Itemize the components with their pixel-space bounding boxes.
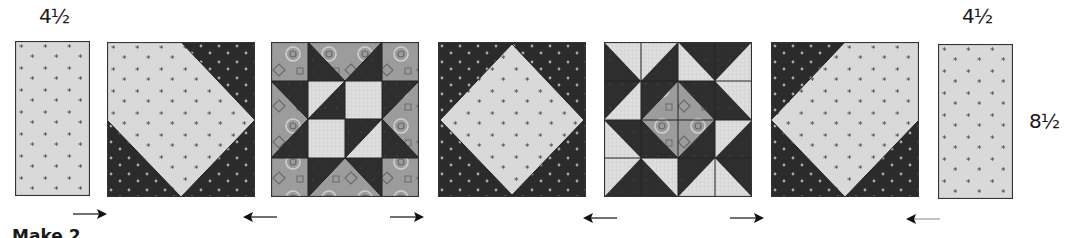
dimension-label-left-width: 4½ [39,4,69,28]
dimension-label-right-width: 4½ [962,4,992,28]
snowball-block-left [107,42,255,197]
arrow-left-icon [243,211,277,223]
make-count-caption: Make 2 [12,226,81,238]
arrow-left-icon [906,213,940,225]
arrow-right-icon [73,208,107,220]
dimension-label-height: 8½ [1029,109,1059,133]
left-side-rectangle [15,41,90,196]
square-in-square-block [438,42,586,197]
arrow-right-icon [730,212,764,224]
snowball-block-right [771,42,919,197]
arrow-right-icon [390,211,424,223]
arrow-left-icon [583,212,617,224]
pinwheel-star-block [604,42,752,197]
sawtooth-star-block [271,42,419,197]
right-side-rectangle [938,44,1013,199]
